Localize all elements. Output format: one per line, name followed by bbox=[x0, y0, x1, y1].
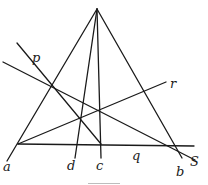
label-a: a bbox=[3, 159, 11, 174]
label-c: c bbox=[96, 158, 104, 173]
label-r: r bbox=[170, 76, 177, 91]
label-b: b bbox=[176, 164, 184, 179]
line-p bbox=[17, 43, 101, 144]
geometry-diagram: a d c q b S p r bbox=[0, 0, 208, 185]
figure-caption bbox=[0, 181, 208, 185]
label-q: q bbox=[132, 148, 140, 163]
label-s: S bbox=[190, 154, 199, 169]
label-p: p bbox=[32, 50, 41, 65]
line-r bbox=[18, 82, 166, 144]
caption-text-cropped bbox=[88, 183, 120, 184]
line-c bbox=[97, 9, 101, 158]
label-d: d bbox=[67, 158, 75, 173]
